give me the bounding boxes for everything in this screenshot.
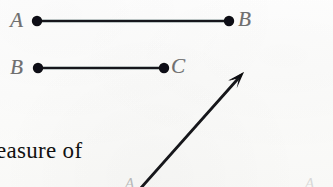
label-vertex-a-bottom-right: A [305,176,314,187]
segment-ab-endpoint-dot-b [224,16,234,26]
segment-ab-group [32,16,234,26]
label-point-a-segment-ab: A [10,10,23,31]
ray-group [140,72,244,187]
segment-bc-group [33,63,169,73]
text-fragment-measure-of: easure of [0,139,82,162]
label-point-b-segment-ab: B [238,9,251,30]
segment-bc-endpoint-dot-c [159,63,169,73]
label-point-b-segment-bc: B [10,57,23,78]
segment-bc-endpoint-dot-b [33,63,43,73]
segment-ab-endpoint-dot-a [32,16,42,26]
label-point-c-segment-bc: C [171,56,185,77]
ray-shaft-line [140,79,238,187]
scanned-figure-page: A B B C easure of A A [0,0,333,187]
label-vertex-a-bottom-left: A [125,176,134,187]
